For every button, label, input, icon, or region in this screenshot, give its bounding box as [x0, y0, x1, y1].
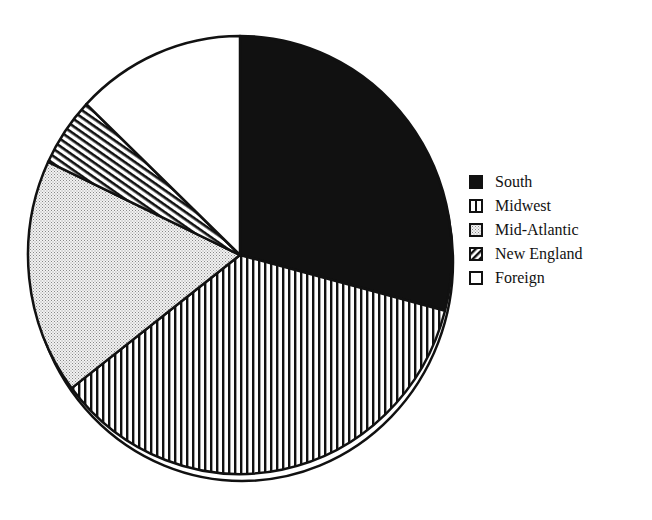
legend-item-new-england: New England	[469, 242, 583, 266]
pie-slices	[28, 36, 452, 474]
legend-item-mid-atlantic: Mid-Atlantic	[469, 218, 583, 242]
swatch-solid-icon	[469, 175, 483, 189]
legend: South Midwest Mid-Atlantic New England F…	[469, 170, 583, 290]
legend-item-south: South	[469, 170, 583, 194]
swatch-white-icon	[469, 271, 483, 285]
legend-label: Mid-Atlantic	[495, 222, 579, 238]
legend-item-midwest: Midwest	[469, 194, 583, 218]
legend-label: South	[495, 174, 532, 190]
swatch-dots-icon	[469, 223, 483, 237]
legend-label: Midwest	[495, 198, 551, 214]
swatch-diagonal-stripes-icon	[469, 247, 483, 261]
legend-label: New England	[495, 246, 583, 262]
legend-label: Foreign	[495, 270, 545, 286]
legend-item-foreign: Foreign	[469, 266, 583, 290]
swatch-vertical-stripes-icon	[469, 199, 483, 213]
